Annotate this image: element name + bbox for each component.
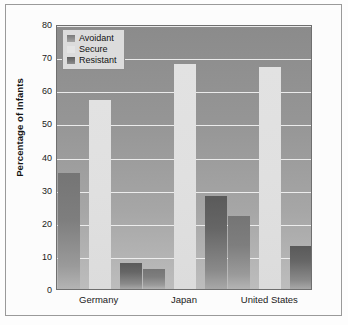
y-axis-tick-label: 0 (28, 286, 52, 295)
chart-legend: AvoidantSecureResistant (62, 29, 125, 70)
bar-secure-germany (89, 100, 111, 289)
bar-secure-japan (174, 64, 196, 289)
legend-item-label: Avoidant (79, 33, 114, 44)
bar-resistant-germany (120, 263, 142, 290)
legend-item-label: Resistant (79, 55, 117, 66)
y-axis-tick-label: 70 (28, 54, 52, 63)
y-axis-tick-label: 60 (28, 87, 52, 96)
legend-swatch-icon (67, 35, 75, 42)
chart-figure: Percentage of Infants 80706050403020100 … (0, 0, 348, 325)
y-axis-tick-label: 10 (28, 252, 52, 261)
y-axis-tick-label: 40 (28, 153, 52, 162)
legend-item-label: Secure (79, 44, 108, 55)
legend-item: Avoidant (67, 33, 117, 44)
bar-resistant-united-states (290, 246, 312, 289)
legend-item: Resistant (67, 55, 117, 66)
x-axis-tick-label: Japan (171, 294, 197, 305)
bar-avoidant-japan (143, 269, 165, 289)
legend-swatch-icon (67, 46, 75, 53)
y-axis-tick-label: 20 (28, 219, 52, 228)
legend-item: Secure (67, 44, 117, 55)
bar-avoidant-germany (58, 173, 80, 289)
bar-avoidant-united-states (228, 216, 250, 289)
y-axis-tick-label: 30 (28, 186, 52, 195)
y-axis-tick-label: 50 (28, 120, 52, 129)
y-axis-tick-label: 80 (28, 21, 52, 30)
x-axis-tick-label: United States (241, 294, 298, 305)
bar-resistant-japan (205, 196, 227, 289)
x-axis-tick-label: Germany (79, 294, 118, 305)
legend-swatch-icon (67, 57, 75, 64)
gridline (57, 26, 311, 27)
bar-secure-united-states (259, 67, 281, 289)
y-axis-ticks: 80706050403020100 (22, 25, 52, 290)
